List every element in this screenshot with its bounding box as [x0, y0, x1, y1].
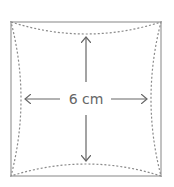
dimension-label: 6 cm — [69, 91, 104, 107]
pillow-diagram: 6 cm — [0, 0, 174, 187]
